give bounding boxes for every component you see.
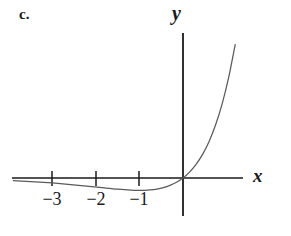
plotted-curve	[13, 45, 235, 191]
x-axis-label: x	[253, 165, 263, 187]
part-label: c.	[19, 6, 30, 23]
x-tick-label-minus2: −2	[80, 189, 112, 210]
x-tick-label-minus1: −1	[123, 189, 155, 210]
figure-container: c. y x −3 −2 −1	[0, 0, 291, 236]
y-axis-label: y	[172, 2, 181, 25]
x-tick-label-minus3: −3	[36, 189, 68, 210]
